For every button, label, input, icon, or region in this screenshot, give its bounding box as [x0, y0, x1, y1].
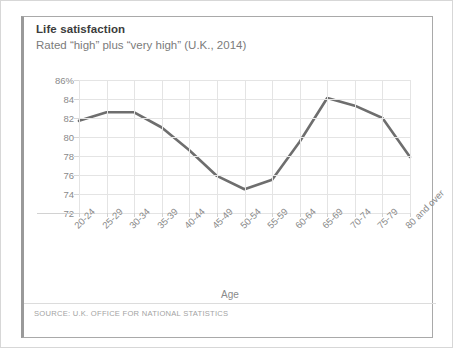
y-axis-tick-label: 76: [63, 170, 74, 181]
gridline-vertical: [107, 80, 108, 213]
chart-subtitle: Rated “high” plus “very high” (U.K., 201…: [36, 39, 246, 51]
gridline-vertical: [382, 80, 383, 213]
chart-screenshot: Life satisfaction Rated “high” plus “ver…: [0, 0, 453, 348]
y-axis-tick-label: 86%: [55, 75, 74, 86]
y-axis-tick-label: 82: [63, 113, 74, 124]
x-axis-tick-mark: [79, 213, 80, 217]
y-axis-tick-label: 78: [63, 151, 74, 162]
gridline-vertical: [245, 80, 246, 213]
x-axis-tick-mark: [410, 213, 411, 217]
page-title: Life satisfaction: [36, 23, 125, 35]
gridline-vertical: [162, 80, 163, 213]
x-axis-tick-mark: [189, 213, 190, 217]
y-axis-tick-label: 74: [63, 189, 74, 200]
gridline-vertical: [272, 80, 273, 213]
source-note: SOURCE: U.K. OFFICE FOR NATIONAL STATIST…: [34, 309, 228, 318]
x-axis-tick-mark: [300, 213, 301, 217]
gridline-vertical: [355, 80, 356, 213]
y-axis-tick-label: 84: [63, 94, 74, 105]
gridline-vertical: [300, 80, 301, 213]
gridline-vertical: [134, 80, 135, 213]
x-axis-tick-mark: [382, 213, 383, 217]
x-axis-tick-mark: [162, 213, 163, 217]
gridline-vertical: [410, 80, 411, 213]
gridline-vertical: [189, 80, 190, 213]
x-axis-tick-mark: [217, 213, 218, 217]
y-axis-labels: 86%84828078767472: [30, 80, 74, 213]
x-axis-tick-mark: [327, 213, 328, 217]
x-axis-tick-mark: [245, 213, 246, 217]
x-axis-title: Age: [24, 289, 436, 300]
gridline-vertical: [79, 80, 80, 213]
chart-card: Life satisfaction Rated “high” plus “ver…: [21, 16, 433, 338]
x-axis-tick-mark: [355, 213, 356, 217]
x-axis-tick-mark: [272, 213, 273, 217]
plot-area: [79, 80, 410, 213]
source-divider: [24, 303, 436, 304]
x-axis-tick-mark: [107, 213, 108, 217]
y-axis-tick-label: 80: [63, 132, 74, 143]
x-axis-tick-mark: [134, 213, 135, 217]
gridline-vertical: [327, 80, 328, 213]
gridline-vertical: [217, 80, 218, 213]
